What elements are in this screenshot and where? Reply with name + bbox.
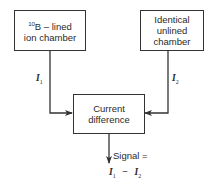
expr-i2-sub: 2 xyxy=(138,173,141,179)
i1-subscript: 1 xyxy=(40,79,43,85)
right-current-wire xyxy=(145,50,168,113)
center-line2: difference xyxy=(88,114,130,125)
expr-i1-sub: 1 xyxy=(113,173,116,179)
unlined-line1: Identical xyxy=(154,14,189,25)
unlined-line2: unlined xyxy=(157,25,188,36)
boron-chamber-line1: 10B – lined xyxy=(28,19,72,32)
current-i2-label: I2 xyxy=(172,73,179,85)
isotope-mass: 10 xyxy=(28,21,35,27)
minus-operator: − xyxy=(122,166,128,177)
signal-output-label: Signal = xyxy=(113,149,148,163)
unlined-chamber-box: Identical unlined chamber xyxy=(140,10,204,51)
left-current-wire xyxy=(50,50,72,113)
signal-expression: I1 − I2 xyxy=(109,165,141,183)
current-i1-label: I1 xyxy=(36,73,43,85)
boron-lined-chamber-box: 10B – lined ion chamber xyxy=(14,10,86,51)
boron-chamber-line2: ion chamber xyxy=(24,32,76,43)
unlined-line3: chamber xyxy=(154,36,191,47)
i2-subscript: 2 xyxy=(176,79,179,85)
center-line1: Current xyxy=(93,103,125,114)
signal-text: Signal = xyxy=(113,149,148,163)
current-difference-box: Current difference xyxy=(73,94,145,134)
boron-lined-text: B – lined xyxy=(35,21,72,32)
